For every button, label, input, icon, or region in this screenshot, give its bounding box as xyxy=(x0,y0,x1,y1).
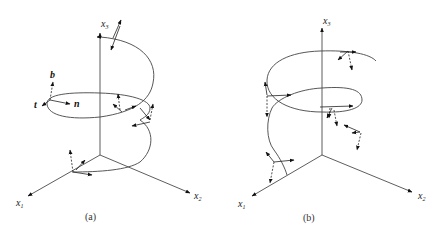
frame-a-bottom xyxy=(70,150,92,175)
frame-b-top xyxy=(338,51,356,70)
caption-a: (a) xyxy=(85,211,96,223)
x1-axis xyxy=(28,155,100,196)
helix-curve-b xyxy=(267,51,376,175)
frame-b-left-upper xyxy=(265,82,291,117)
frame-a-labeled: b n t xyxy=(34,69,80,110)
binormal-label: b xyxy=(50,69,55,80)
x1-axis-b xyxy=(252,155,322,196)
x2-axis-label: x2 xyxy=(193,190,201,202)
frame-b-middle xyxy=(320,106,353,126)
panel-b: x3 x1 x2 xyxy=(237,15,425,224)
x2-axis xyxy=(100,155,190,193)
x1-axis-label-b: x1 xyxy=(237,198,245,210)
x2-axis-b xyxy=(322,155,412,192)
caption-b: (b) xyxy=(303,212,315,224)
normal-vector xyxy=(50,100,70,104)
helix-frames-figure: x3 x1 x2 b n t xyxy=(0,0,435,243)
x1-axis-label: x1 xyxy=(15,197,23,209)
frame-b-bottom xyxy=(266,152,294,183)
tangent-vector xyxy=(42,100,50,106)
panel-a: x3 x1 x2 b n t xyxy=(15,18,201,223)
x3-axis-label: x3 xyxy=(100,18,108,30)
x3-axis-label-b: x3 xyxy=(322,15,330,27)
tangent-label: t xyxy=(34,99,38,110)
frame-b-right xyxy=(344,125,361,150)
normal-label: n xyxy=(74,98,80,109)
x2-axis-label-b: x2 xyxy=(417,190,425,202)
